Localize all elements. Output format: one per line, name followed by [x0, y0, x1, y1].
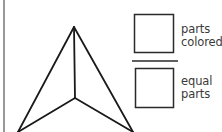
diagram-canvas — [0, 0, 222, 132]
numerator-label: parts colored — [181, 23, 222, 49]
triangle-right-edge — [74, 27, 133, 132]
denominator-label: equal parts — [181, 75, 212, 101]
denominator-answer-box[interactable] — [136, 69, 174, 108]
numerator-label-line2: colored — [181, 36, 222, 49]
divider-apex-to-center — [74, 27, 75, 98]
numerator-answer-box[interactable] — [135, 15, 174, 53]
divided-triangle — [18, 27, 133, 132]
denominator-label-line2: parts — [181, 88, 212, 101]
